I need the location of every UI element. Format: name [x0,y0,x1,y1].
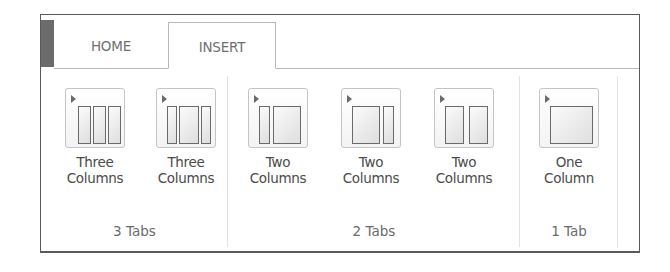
button-label: Three Columns [58,154,132,186]
tab-marker-icon [347,95,352,103]
button-label: Two Columns [241,154,315,186]
two-columns-narrow-left-icon [248,88,308,148]
tab-marker-icon [545,95,550,103]
accent-block [41,20,54,67]
two-columns-equal-icon [434,88,494,148]
group-1-tab: One Column 1 Tab [520,76,618,247]
three-columns-wide-center-icon [156,88,216,148]
button-label: Three Columns [149,154,223,186]
three-columns-button-2[interactable]: Three Columns [149,88,223,186]
tab-marker-icon [162,95,167,103]
group-separator [617,76,618,247]
three-columns-button-1[interactable]: Three Columns [58,88,132,186]
group-label: 2 Tabs [228,223,520,239]
tab-marker-icon [71,95,76,103]
one-column-button[interactable]: One Column [532,88,606,186]
ribbon-panel: Three Columns Three Columns 3 Tabs [41,68,639,251]
button-label: Two Columns [334,154,408,186]
two-columns-button-2[interactable]: Two Columns [334,88,408,186]
tab-insert[interactable]: INSERT [168,22,276,69]
tab-home[interactable]: HOME [54,22,168,68]
ribbon-window: HOME INSERT Three Columns [40,14,640,253]
button-label: Two Columns [427,154,501,186]
button-label: One Column [532,154,606,186]
group-label: 3 Tabs [41,223,228,239]
two-columns-narrow-right-icon [341,88,401,148]
two-columns-button-1[interactable]: Two Columns [241,88,315,186]
group-2-tabs: Two Columns Two Columns [228,76,520,247]
three-columns-equal-icon [65,88,125,148]
group-label: 1 Tab [520,223,618,239]
two-columns-button-3[interactable]: Two Columns [427,88,501,186]
one-column-icon [539,88,599,148]
tab-marker-icon [254,95,259,103]
tab-marker-icon [440,95,445,103]
tab-strip: HOME INSERT [54,15,639,69]
group-3-tabs: Three Columns Three Columns 3 Tabs [41,76,228,247]
